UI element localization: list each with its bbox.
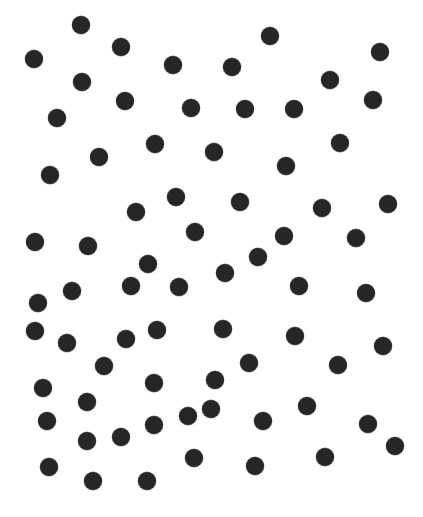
dot xyxy=(240,354,258,372)
dot xyxy=(285,100,303,118)
dot xyxy=(277,157,295,175)
dot xyxy=(117,330,135,348)
dot xyxy=(359,415,377,433)
dot xyxy=(95,357,113,375)
dot xyxy=(112,38,130,56)
dot xyxy=(167,188,185,206)
dot xyxy=(148,321,166,339)
dot xyxy=(347,229,365,247)
dot xyxy=(286,327,304,345)
dot xyxy=(112,428,130,446)
dot xyxy=(321,71,339,89)
dot xyxy=(72,16,90,34)
dot xyxy=(90,148,108,166)
dot xyxy=(249,248,267,266)
dot xyxy=(290,277,308,295)
dot xyxy=(182,99,200,117)
dot xyxy=(379,195,397,213)
dot xyxy=(38,412,56,430)
dot xyxy=(364,91,382,109)
dot xyxy=(374,337,392,355)
dot xyxy=(84,472,102,490)
dot xyxy=(146,135,164,153)
dot xyxy=(138,472,156,490)
dot xyxy=(275,227,293,245)
dot xyxy=(116,92,134,110)
dot xyxy=(179,407,197,425)
dot xyxy=(73,73,91,91)
dot xyxy=(186,223,204,241)
dot xyxy=(164,56,182,74)
dot xyxy=(202,400,220,418)
dot xyxy=(216,264,234,282)
dot xyxy=(246,457,264,475)
dot xyxy=(371,43,389,61)
dot xyxy=(185,449,203,467)
dot xyxy=(26,233,44,251)
dot xyxy=(231,193,249,211)
dot xyxy=(331,134,349,152)
dot xyxy=(34,379,52,397)
dot xyxy=(329,356,347,374)
dot xyxy=(40,458,58,476)
dot xyxy=(223,58,241,76)
dot xyxy=(261,27,279,45)
dot xyxy=(78,393,96,411)
dot xyxy=(357,284,375,302)
dot xyxy=(316,448,334,466)
dot xyxy=(63,282,81,300)
dot xyxy=(41,166,59,184)
dot xyxy=(122,277,140,295)
dot xyxy=(58,334,76,352)
dot xyxy=(127,203,145,221)
dot xyxy=(26,322,44,340)
dot xyxy=(79,237,97,255)
dot xyxy=(29,294,47,312)
dot xyxy=(48,109,66,127)
dot xyxy=(313,199,331,217)
dot xyxy=(170,278,188,296)
dot xyxy=(214,320,232,338)
dot-field xyxy=(0,0,423,517)
dot xyxy=(139,255,157,273)
dot xyxy=(298,397,316,415)
dot xyxy=(386,437,404,455)
dot xyxy=(206,371,224,389)
dot xyxy=(236,100,254,118)
dot xyxy=(145,416,163,434)
dot xyxy=(254,412,272,430)
dot xyxy=(25,50,43,68)
dot xyxy=(205,143,223,161)
dot xyxy=(145,374,163,392)
dot xyxy=(78,432,96,450)
